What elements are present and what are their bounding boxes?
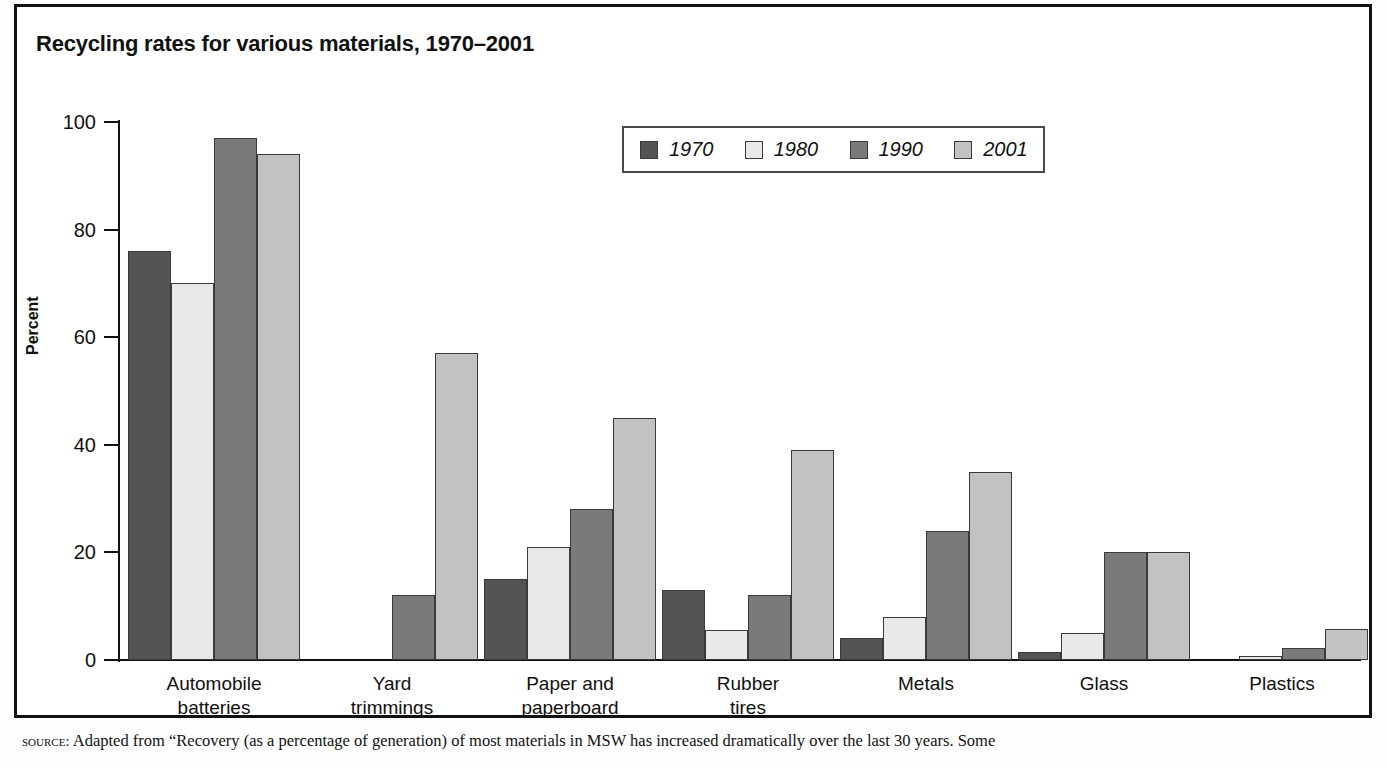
x-axis-label-glass: Glass — [1009, 672, 1199, 696]
source-note-text: Adapted from “Recovery (as a percentage … — [70, 731, 996, 750]
x-axis-label-metals: Metals — [831, 672, 1021, 696]
y-axis-tick-label: 20 — [36, 541, 96, 564]
x-axis-label-automobile-batteries: Automobilebatteries — [119, 672, 309, 719]
x-axis-label-plastics: Plastics — [1187, 672, 1377, 696]
x-axis-label-line: tires — [653, 696, 843, 720]
bar-group — [1196, 122, 1368, 660]
chart-legend: 1970198019902001 — [622, 126, 1045, 173]
y-axis-tick-mark — [104, 551, 119, 553]
bar-1990-glass — [1104, 552, 1147, 660]
plot-area — [118, 122, 1360, 660]
x-axis-label-line: Rubber — [653, 672, 843, 696]
x-axis-label-line: Plastics — [1187, 672, 1377, 696]
bar-2001-plastics — [1325, 629, 1368, 660]
bar-group — [128, 122, 300, 660]
y-axis-tick-label: 60 — [36, 326, 96, 349]
y-axis-tick-mark — [104, 659, 119, 661]
legend-label-1980: 1980 — [774, 138, 819, 161]
x-axis-label-line: paperboard — [475, 696, 665, 720]
bar-2001-automobile-batteries — [257, 154, 300, 660]
x-axis-label-line: Glass — [1009, 672, 1199, 696]
x-axis-label-line: trimmings — [297, 696, 487, 720]
legend-label-2001: 2001 — [983, 138, 1028, 161]
bar-group — [662, 122, 834, 660]
x-axis-label-paper-and-paperboard: Paper andpaperboard — [475, 672, 665, 719]
bar-2001-yard-trimmings — [435, 353, 478, 660]
bar-1990-plastics — [1282, 648, 1325, 660]
x-axis-label-line: Yard — [297, 672, 487, 696]
source-note-label: source: — [22, 733, 70, 749]
y-axis-tick-label: 80 — [36, 218, 96, 241]
bar-1980-glass — [1061, 633, 1104, 660]
bar-1980-automobile-batteries — [171, 283, 214, 660]
y-axis-tick-label: 40 — [36, 433, 96, 456]
figure-container: Recycling rates for various materials, 1… — [0, 0, 1386, 769]
y-axis-tick-mark — [104, 121, 119, 123]
source-note: source: Adapted from “Recovery (as a per… — [22, 731, 1372, 751]
x-axis-label-rubber-tires: Rubbertires — [653, 672, 843, 719]
legend-item-1980[interactable]: 1980 — [729, 138, 834, 161]
bar-1990-yard-trimmings — [392, 595, 435, 660]
x-axis-label-yard-trimmings: Yardtrimmings — [297, 672, 487, 719]
bar-1980-rubber-tires — [705, 630, 748, 660]
y-axis-tick-label: 100 — [36, 111, 96, 134]
legend-label-1970: 1970 — [669, 138, 714, 161]
legend-label-1990: 1990 — [879, 138, 924, 161]
y-axis-tick-label: 0 — [36, 649, 96, 672]
bar-1970-rubber-tires — [662, 590, 705, 660]
chart-title: Recycling rates for various materials, 1… — [36, 31, 534, 57]
y-axis-tick-mark — [104, 336, 119, 338]
legend-swatch-icon-1990 — [850, 141, 868, 159]
bar-2001-rubber-tires — [791, 450, 834, 660]
bar-1990-paper-and-paperboard — [570, 509, 613, 660]
legend-item-1990[interactable]: 1990 — [834, 138, 939, 161]
legend-swatch-icon-1980 — [745, 141, 763, 159]
bar-group — [840, 122, 1012, 660]
x-axis-label-line: batteries — [119, 696, 309, 720]
bar-2001-metals — [969, 472, 1012, 660]
bar-1970-automobile-batteries — [128, 251, 171, 660]
legend-swatch-icon-1970 — [640, 141, 658, 159]
bar-2001-glass — [1147, 552, 1190, 660]
bar-1970-metals — [840, 638, 883, 660]
bar-1990-rubber-tires — [748, 595, 791, 660]
bar-2001-paper-and-paperboard — [613, 418, 656, 660]
x-axis-label-line: Automobile — [119, 672, 309, 696]
bar-1970-glass — [1018, 652, 1061, 660]
bar-group — [1018, 122, 1190, 660]
legend-item-1970[interactable]: 1970 — [624, 138, 729, 161]
bar-group — [484, 122, 656, 660]
legend-item-2001[interactable]: 2001 — [938, 138, 1043, 161]
bar-1970-paper-and-paperboard — [484, 579, 527, 660]
bar-group — [306, 122, 478, 660]
bar-1990-automobile-batteries — [214, 138, 257, 660]
legend-swatch-icon-2001 — [954, 141, 972, 159]
bar-1980-metals — [883, 617, 926, 660]
bar-1980-paper-and-paperboard — [527, 547, 570, 660]
bar-1980-plastics — [1239, 656, 1282, 660]
y-axis-tick-mark — [104, 229, 119, 231]
x-axis-label-line: Metals — [831, 672, 1021, 696]
y-axis-tick-mark — [104, 444, 119, 446]
x-axis-label-line: Paper and — [475, 672, 665, 696]
bar-1990-metals — [926, 531, 969, 660]
